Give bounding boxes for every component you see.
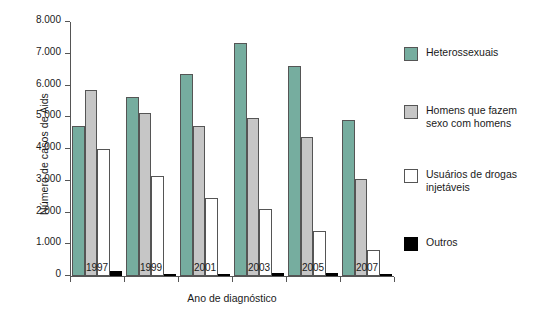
- y-tick-label: 3.000: [36, 173, 61, 184]
- legend-label: Usuários de drogas injetáveis: [426, 168, 517, 193]
- bar-group: [288, 22, 338, 276]
- plot-area: 01.0002.0003.0004.0005.0006.0007.0008.00…: [70, 22, 394, 277]
- y-tick-label: 0: [55, 268, 61, 279]
- bar: [301, 137, 314, 276]
- bar: [218, 274, 231, 276]
- legend-item[interactable]: Outros: [404, 236, 458, 251]
- legend-item[interactable]: Heterossexuais: [404, 46, 498, 61]
- bar: [85, 90, 98, 276]
- y-tick-label: 4.000: [36, 141, 61, 152]
- legend-swatch-icon: [404, 47, 418, 61]
- y-tick: 6.000: [65, 85, 70, 86]
- bar: [326, 273, 339, 276]
- y-axis-line: [70, 22, 71, 277]
- y-tick: 3.000: [65, 180, 70, 181]
- bar-group: [180, 22, 230, 276]
- legend-label: Heterossexuais: [426, 46, 498, 59]
- legend-swatch-icon: [404, 169, 418, 183]
- x-tick: [70, 277, 71, 282]
- x-tick: [178, 277, 179, 282]
- bar: [288, 66, 301, 276]
- y-tick-label: 8.000: [36, 14, 61, 25]
- y-tick: 0: [65, 275, 70, 276]
- aids-cases-bar-chart: Número de casos de Aids 01.0002.0003.000…: [0, 0, 536, 327]
- bar: [126, 97, 139, 276]
- legend-item[interactable]: Usuários de drogas injetáveis: [404, 168, 517, 193]
- bar: [234, 43, 247, 276]
- bar: [164, 274, 177, 276]
- y-tick-label: 7.000: [36, 46, 61, 57]
- x-tick-label: 1999: [124, 262, 178, 273]
- x-tick-label: 2003: [232, 262, 286, 273]
- y-tick: 4.000: [65, 148, 70, 149]
- x-tick-label: 2005: [286, 262, 340, 273]
- legend-swatch-icon: [404, 105, 418, 119]
- y-tick: 8.000: [65, 21, 70, 22]
- bar-group: [72, 22, 122, 276]
- y-tick: 7.000: [65, 53, 70, 54]
- x-tick: [286, 277, 287, 282]
- bar: [272, 273, 285, 276]
- y-tick: 5.000: [65, 116, 70, 117]
- legend-label: Homens que fazem sexo com homens: [426, 104, 517, 129]
- legend-item[interactable]: Homens que fazem sexo com homens: [404, 104, 517, 129]
- bar: [247, 118, 260, 276]
- x-tick: [340, 277, 341, 282]
- bar: [193, 126, 206, 276]
- x-tick: [124, 277, 125, 282]
- legend-swatch-icon: [404, 237, 418, 251]
- bar-group: [234, 22, 284, 276]
- bar-group: [126, 22, 176, 276]
- bar: [342, 120, 355, 276]
- x-tick: [394, 277, 395, 282]
- legend-label: Outros: [426, 236, 458, 249]
- x-tick-label: 2007: [340, 262, 394, 273]
- bar: [97, 149, 110, 276]
- x-tick: [232, 277, 233, 282]
- y-tick: 1.000: [65, 243, 70, 244]
- y-tick-label: 1.000: [36, 236, 61, 247]
- x-tick-label: 1997: [70, 262, 124, 273]
- bar: [180, 74, 193, 276]
- bar: [139, 113, 152, 276]
- x-axis-title: Ano de diagnóstico: [70, 292, 394, 304]
- bar: [72, 126, 85, 276]
- y-tick-label: 2.000: [36, 205, 61, 216]
- y-tick-label: 5.000: [36, 109, 61, 120]
- y-tick: 2.000: [65, 212, 70, 213]
- y-tick-label: 6.000: [36, 78, 61, 89]
- x-tick-label: 2001: [178, 262, 232, 273]
- bar-group: [342, 22, 392, 276]
- bar: [380, 274, 393, 276]
